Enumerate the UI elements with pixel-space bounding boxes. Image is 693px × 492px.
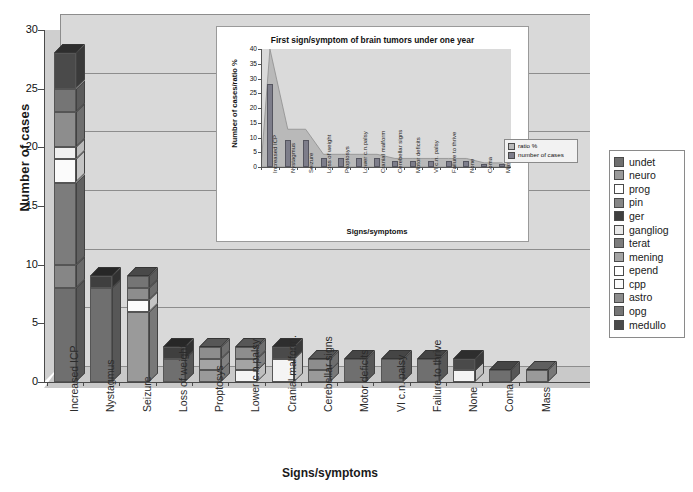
legend-item-neuro[interactable]: neuro [614, 169, 681, 183]
bar[interactable] [90, 14, 112, 382]
x-axis-label: None [467, 387, 479, 412]
x-tick-mark [83, 382, 84, 386]
legend-swatch-icon [614, 238, 624, 248]
bar-segment[interactable] [526, 370, 548, 382]
legend-item-prog[interactable]: prog [614, 182, 681, 196]
inset-x-axis-label: VI c.n. palsy [433, 140, 439, 173]
x-axis-label: Seizure [141, 376, 153, 412]
inset-y-tick-label: 5 [241, 148, 257, 155]
inset-chart-title: First sign/symptom of brain tumors under… [217, 35, 528, 45]
inset-legend-swatch-icon [508, 143, 515, 150]
legend-swatch-icon [614, 306, 624, 316]
inset-x-axis-label: Loss of weight [326, 135, 332, 173]
inset-legend-item[interactable]: ratio % [508, 142, 574, 151]
legend-item-astro[interactable]: astro [614, 291, 681, 305]
y-axis-title: Number of cases [17, 78, 32, 238]
legend-item-epend[interactable]: epend [614, 264, 681, 278]
inset-x-tick-mark [279, 167, 280, 170]
x-tick-mark [519, 382, 520, 386]
inset-y-tick-label: 40 [241, 45, 257, 52]
x-axis-label: Increased ICP [68, 345, 80, 412]
x-tick-mark [301, 382, 302, 386]
bar-segment[interactable] [54, 112, 76, 147]
inset-y-axis-title: Number of cases/ratio % [230, 49, 239, 159]
inset-x-tick-mark [368, 167, 369, 170]
inset-x-tick-mark [440, 167, 441, 170]
inset-x-tick-mark [261, 167, 262, 170]
legend-swatch-icon [614, 157, 624, 167]
bar-segment[interactable] [54, 265, 76, 288]
inset-x-tick-mark [386, 167, 387, 170]
bar-segment[interactable] [489, 370, 511, 382]
bar-segment[interactable] [127, 276, 149, 288]
inset-x-axis-label: Cranial malform [380, 131, 386, 173]
x-axis-title: Signs/symptoms [230, 466, 430, 480]
inset-y-tick-label: 25 [241, 89, 257, 96]
bar-segment[interactable] [199, 347, 221, 359]
legend-item-opg[interactable]: opg [614, 305, 681, 319]
bar-segment[interactable] [90, 276, 112, 288]
inset-x-axis-label: None [469, 159, 475, 173]
legend-item-pin[interactable]: pin [614, 196, 681, 210]
bar-segment[interactable] [54, 53, 76, 88]
y-tick-label: 15 [14, 199, 38, 211]
bar-segment[interactable] [127, 312, 149, 382]
bar[interactable] [54, 14, 76, 382]
y-tick-label: 25 [14, 82, 38, 94]
x-tick-mark [119, 382, 120, 386]
legend-swatch-icon [614, 293, 624, 303]
legend-swatch-icon [614, 211, 624, 221]
bar-segment[interactable] [54, 89, 76, 112]
legend-item-medullo[interactable]: medullo [614, 318, 681, 332]
x-tick-mark [192, 382, 193, 386]
x-tick-mark [482, 382, 483, 386]
legend-item-ger[interactable]: ger [614, 209, 681, 223]
legend-label: astro [629, 292, 652, 303]
bar-segment[interactable] [54, 147, 76, 159]
inset-legend-label: number of cases [518, 152, 564, 158]
inset-x-tick-mark [332, 167, 333, 170]
bar[interactable] [163, 14, 185, 382]
legend-label: terat [629, 238, 650, 249]
legend-swatch-icon [614, 198, 624, 208]
x-axis-label: Mass [540, 387, 552, 412]
legend-label: epend [629, 265, 658, 276]
y-tick-label: 5 [14, 316, 38, 328]
inset-legend-item[interactable]: number of cases [508, 151, 574, 160]
legend-label: opg [629, 306, 647, 317]
bar-segment[interactable] [54, 183, 76, 265]
bar-segment[interactable] [127, 288, 149, 300]
inset-plot-area: 0510152025303540 Increased ICPNystagmusS… [261, 49, 511, 167]
bar-segment[interactable] [54, 159, 76, 182]
x-axis-label: Motor deficits [358, 350, 370, 412]
bar[interactable] [127, 14, 149, 382]
legend-label: neuro [629, 170, 656, 181]
legend-swatch-icon [614, 266, 624, 276]
legend-label: pin [629, 197, 643, 208]
legend-item-mening[interactable]: mening [614, 250, 681, 264]
inset-x-axis-label: Proptosys [344, 146, 350, 173]
legend-item-undet[interactable]: undet [614, 155, 681, 169]
bar-segment[interactable] [453, 370, 475, 382]
legend[interactable]: undetneuroprogpingergangliogteratmeninge… [609, 150, 685, 338]
bar-segment[interactable] [127, 300, 149, 312]
legend-item-cpp[interactable]: cpp [614, 277, 681, 291]
bar-segment-side [149, 303, 158, 382]
legend-swatch-icon [614, 320, 624, 330]
x-axis-line [44, 382, 590, 383]
x-axis-label: Proptosys [213, 365, 225, 412]
bar[interactable] [526, 14, 548, 382]
legend-label: mening [629, 252, 663, 263]
y-tick-label: 20 [14, 140, 38, 152]
inset-y-axis-line [261, 49, 262, 167]
inset-y-tick-label: 20 [241, 104, 257, 111]
legend-item-gangliog[interactable]: gangliog [614, 223, 681, 237]
x-axis-label: Loss of weight [177, 345, 189, 412]
legend-label: prog [629, 184, 650, 195]
inset-x-tick-mark [475, 167, 476, 170]
bar-segment[interactable] [453, 359, 475, 371]
legend-item-terat[interactable]: terat [614, 237, 681, 251]
inset-y-tick-label: 15 [241, 119, 257, 126]
y-tick-label: 30 [14, 23, 38, 35]
inset-chart: First sign/symptom of brain tumors under… [216, 26, 529, 242]
